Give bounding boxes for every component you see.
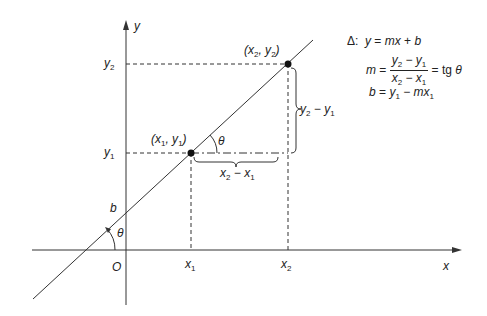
point-2 (285, 61, 292, 68)
x2-tick: x2 (281, 258, 291, 273)
slope-fraction: y2 − y1 x2 − x1 (390, 54, 429, 87)
point-2-label: (x2, y2) (244, 44, 280, 59)
angle-label-axis: θ (117, 227, 124, 239)
angle-arc-at-point (210, 135, 217, 153)
x-axis-label: x (443, 260, 449, 272)
equation-intercept: b = y1 − mx1 (369, 86, 434, 101)
line-delta (33, 40, 313, 299)
rise-label: y2 − y1 (300, 103, 335, 118)
line-slope-diagram: y x O y2 y1 x1 x2 (x2, y2) (x1, y1) b θ … (0, 0, 487, 316)
guide-lines (126, 64, 288, 250)
y2-tick: y2 (104, 57, 114, 72)
equation-line: Δ: y = mx + b (347, 35, 421, 47)
equation-slope: m = y2 − y1 x2 − x1 = tg θ (366, 54, 462, 87)
point-1-label: (x1, y1) (151, 133, 187, 148)
run-label: x2 − x1 (220, 167, 255, 182)
y-axis-label: y (134, 20, 140, 32)
x-axis-arrow-icon (452, 247, 462, 253)
origin-label: O (112, 261, 121, 273)
x1-tick: x1 (185, 258, 195, 273)
delta-symbol: Δ: (347, 34, 358, 48)
y1-tick: y1 (104, 146, 114, 161)
y-axis-arrow-icon (123, 20, 129, 30)
point-1 (188, 150, 195, 157)
intercept-label: b (110, 202, 117, 214)
angle-label-point: θ (218, 135, 225, 147)
